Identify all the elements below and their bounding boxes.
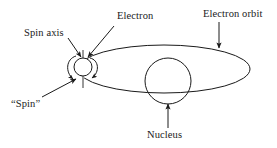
electron-orbit-ellipse	[78, 45, 250, 93]
nucleus-label: Nucleus	[147, 130, 182, 141]
electron-orbit-label: Electron orbit	[203, 9, 262, 20]
spin-label: “Spin”	[11, 99, 40, 110]
diagram-canvas	[0, 0, 277, 148]
atom-diagram-figure: Spin axis Electron Electron orbit “Spin”…	[0, 0, 277, 148]
electron-circle	[74, 58, 92, 76]
nucleus-circle	[145, 58, 191, 104]
spin-axis-label: Spin axis	[24, 28, 64, 39]
electron-label: Electron	[117, 11, 153, 22]
spin-leader-arrow	[42, 79, 76, 97]
spin-axis-leader-arrow	[68, 38, 81, 57]
